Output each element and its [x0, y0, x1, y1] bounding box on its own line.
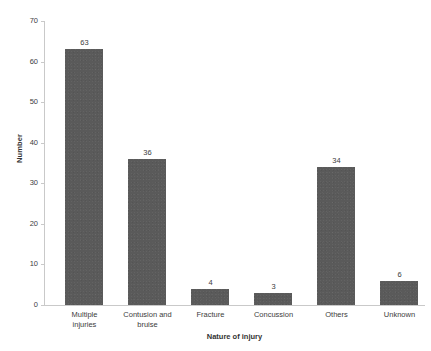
- bar[interactable]: [317, 167, 355, 305]
- y-tick-label: 50: [30, 97, 38, 106]
- bar-group: 6: [368, 21, 431, 305]
- bar-value-label: 6: [368, 270, 431, 279]
- x-tick-label: Contusion andbruise: [116, 310, 179, 329]
- x-tick-label: Unknown: [368, 310, 431, 320]
- x-tick-label-line: Others: [305, 310, 368, 320]
- y-tick-label: 40: [30, 138, 38, 147]
- y-tick: 60: [0, 62, 44, 63]
- x-axis-label: Nature of injury: [44, 332, 425, 341]
- y-tick-label: 20: [30, 219, 38, 228]
- x-tick-label-line: Unknown: [368, 310, 431, 320]
- x-tick-label: Others: [305, 310, 368, 320]
- bar-value-label: 34: [305, 156, 368, 165]
- x-tick-label-line: Concussion: [242, 310, 305, 320]
- y-tick: 20: [0, 224, 44, 225]
- y-tick: 70: [0, 21, 44, 22]
- x-tick-label: Concussion: [242, 310, 305, 320]
- bar[interactable]: [65, 49, 103, 305]
- bar-value-label: 63: [53, 38, 116, 47]
- bar[interactable]: [254, 293, 292, 305]
- bar-value-label: 36: [116, 148, 179, 157]
- y-tick: 40: [0, 143, 44, 144]
- y-tick-label: 60: [30, 57, 38, 66]
- x-axis-line: [44, 305, 425, 306]
- bar[interactable]: [128, 159, 166, 305]
- bar-group: 4: [179, 21, 242, 305]
- y-tick-label: 30: [30, 178, 38, 187]
- x-tick-label-line: bruise: [116, 320, 179, 330]
- bar-group: 36: [116, 21, 179, 305]
- y-tick-mark: [41, 305, 44, 306]
- y-tick: 0: [0, 305, 44, 306]
- bar-value-label: 3: [242, 282, 305, 291]
- x-tick-label-line: Fracture: [179, 310, 242, 320]
- bar-group: 63: [53, 21, 116, 305]
- chart-title: [0, 0, 431, 1]
- plot-area: 633643346: [44, 21, 422, 305]
- x-tick-label-line: Multiple: [53, 310, 116, 320]
- bar-group: 3: [242, 21, 305, 305]
- x-tick-label: Multipleinjuries: [53, 310, 116, 329]
- y-tick-label: 0: [34, 300, 38, 309]
- bar-group: 34: [305, 21, 368, 305]
- y-tick: 30: [0, 183, 44, 184]
- y-tick-label: 10: [30, 259, 38, 268]
- bar[interactable]: [191, 289, 229, 305]
- y-tick-label: 70: [30, 16, 38, 25]
- y-axis-label: Number: [15, 119, 24, 179]
- x-tick-label-line: Contusion and: [116, 310, 179, 320]
- bar-value-label: 4: [179, 278, 242, 287]
- x-tick-label-line: injuries: [53, 320, 116, 330]
- y-tick: 50: [0, 102, 44, 103]
- bar-chart: Number 010203040506070 633643346 Multipl…: [0, 0, 431, 351]
- y-tick: 10: [0, 264, 44, 265]
- bar[interactable]: [380, 281, 418, 305]
- x-tick-label: Fracture: [179, 310, 242, 320]
